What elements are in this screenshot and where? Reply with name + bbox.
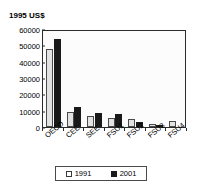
x-tick-mark [42, 128, 43, 131]
x-tick-mark [63, 128, 64, 131]
y-tick-label: 10000 [0, 107, 40, 116]
plot-area [42, 30, 186, 128]
x-tick-mark [104, 128, 105, 131]
y-tick-label: 0 [0, 124, 40, 133]
x-tick-mark [165, 128, 166, 131]
bar-oecd-1991 [46, 49, 53, 127]
chart-legend: 19912001 [55, 166, 147, 181]
legend-item: 1991 [66, 170, 92, 178]
y-tick-label: 50000 [0, 42, 40, 51]
chart-figure: 1995 US$ 0100002000030000400005000060000… [0, 0, 201, 188]
y-tick-mark [42, 79, 45, 80]
y-tick-label: 60000 [0, 26, 40, 35]
x-tick-mark [83, 128, 84, 131]
y-tick-label: 30000 [0, 75, 40, 84]
bar-group [146, 31, 167, 127]
legend-item: 2001 [111, 170, 137, 178]
y-tick-label: 20000 [0, 91, 40, 100]
y-tick-mark [42, 95, 45, 96]
y-tick-mark [42, 46, 45, 47]
y-axis-tick-labels: 0100002000030000400005000060000 [0, 30, 40, 128]
bar-oecd-2001 [54, 39, 61, 127]
light-swatch [66, 171, 72, 177]
dark-swatch [111, 171, 117, 177]
x-tick-mark [186, 128, 187, 131]
x-tick-mark [145, 128, 146, 131]
y-tick-mark [42, 30, 45, 31]
bar-group [105, 31, 126, 127]
legend-label: 2001 [120, 170, 137, 178]
y-axis-label: 1995 US$ [9, 11, 45, 20]
cropped-title-artifact [40, 0, 160, 7]
y-tick-mark [42, 111, 45, 112]
bar-group [166, 31, 187, 127]
bar-group [84, 31, 105, 127]
y-tick-label: 40000 [0, 58, 40, 67]
bar-group [64, 31, 85, 127]
bar-group [125, 31, 146, 127]
y-tick-mark [42, 62, 45, 63]
bar-group [43, 31, 64, 127]
legend-label: 1991 [75, 170, 92, 178]
x-tick-mark [124, 128, 125, 131]
